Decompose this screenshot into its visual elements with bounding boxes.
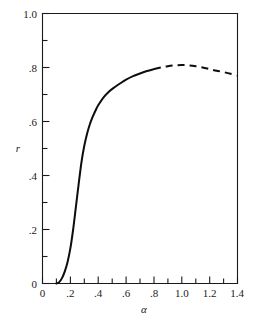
x-tick-label-0: 0	[40, 287, 46, 299]
x-tick-label-1.0: 1.0	[175, 287, 189, 299]
x-tick-label-0.6: .6	[122, 287, 131, 299]
x-tick-label-0.8: .8	[150, 287, 159, 299]
chart-figure: 1.0 .8 .6 .4 .2 0 0 .2 .4 .6 .8 1.0 1.2 …	[0, 0, 253, 320]
line-chart: 1.0 .8 .6 .4 .2 0 0 .2 .4 .6 .8 1.0 1.2 …	[0, 0, 253, 320]
chart-background	[0, 0, 253, 320]
x-tick-label-1.4: 1.4	[230, 287, 244, 299]
y-tick-label-0.8: .8	[29, 62, 38, 74]
y-tick-label-0.4: .4	[29, 170, 38, 182]
y-tick-label-0.6: .6	[29, 116, 38, 128]
y-tick-label-1.0: 1.0	[23, 8, 37, 20]
x-tick-label-0.2: .2	[66, 287, 74, 299]
x-tick-label-0.4: .4	[94, 287, 103, 299]
y-axis-title: r	[16, 142, 21, 154]
x-tick-label-1.2: 1.2	[203, 287, 217, 299]
x-axis-title: α	[141, 303, 147, 315]
y-tick-label-0: 0	[32, 278, 38, 290]
y-tick-label-0.2: .2	[29, 224, 37, 236]
